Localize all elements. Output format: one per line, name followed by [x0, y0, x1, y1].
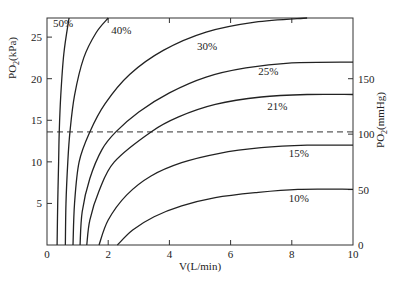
x-tick-label: 8	[289, 248, 295, 260]
curve-labels: 50%40%30%25%21%15%10%	[53, 17, 309, 204]
curve-label-15pct: 15%	[289, 147, 309, 159]
y-left-tick-label: 20	[31, 73, 43, 85]
curve-label-30pct: 30%	[197, 40, 217, 52]
y-left-tick-label: 5	[37, 197, 43, 209]
y-right-tick-label: 100	[358, 128, 375, 140]
y-left-tick-label: 15	[31, 114, 43, 126]
y-left-tick-label: 10	[31, 156, 43, 168]
x-tick-label: 6	[228, 248, 234, 260]
oxygen-curve-chart: 0246810510152025050100150 50%40%30%25%21…	[0, 0, 400, 288]
curve-label-50pct: 50%	[53, 17, 73, 29]
curve-15pct	[99, 145, 353, 245]
curve-label-25pct: 25%	[258, 65, 278, 77]
y-right-tick-label: 150	[358, 73, 375, 85]
curve-21pct	[87, 94, 353, 245]
x-tick-label: 4	[167, 248, 173, 260]
curve-10pct	[117, 189, 353, 245]
y-axis-left-label: PO2(kPa)	[6, 37, 21, 79]
y-right-tick-label: 50	[358, 184, 370, 196]
x-tick-label: 2	[105, 248, 111, 260]
y-axis-right-label: PO2(mmHg)	[374, 92, 389, 148]
x-axis-label: V(L/min)	[179, 260, 221, 273]
y-right-tick-label: 0	[358, 239, 364, 251]
chart-svg: 0246810510152025050100150 50%40%30%25%21…	[0, 0, 400, 288]
curve-label-21pct: 21%	[267, 100, 287, 112]
axes: 0246810510152025050100150	[31, 18, 375, 260]
curve-label-10pct: 10%	[289, 192, 309, 204]
x-tick-label: 0	[44, 248, 50, 260]
curve-label-40pct: 40%	[111, 24, 131, 36]
y-left-tick-label: 25	[31, 31, 43, 43]
